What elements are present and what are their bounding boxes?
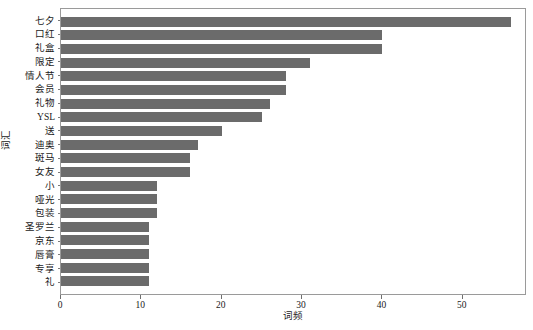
- plot-area: [60, 8, 526, 295]
- bar-row: [61, 275, 525, 288]
- bar: [61, 263, 149, 273]
- bar: [61, 126, 222, 136]
- bar: [61, 208, 157, 218]
- bar-row: [61, 56, 525, 69]
- y-axis-tick-label: 礼盒: [14, 42, 58, 55]
- bar-row: [61, 206, 525, 219]
- x-axis-tick-mark: [140, 295, 141, 299]
- bar: [61, 71, 286, 81]
- bar-row: [61, 261, 525, 274]
- x-axis-tick-label: 20: [216, 300, 226, 311]
- x-axis-tick-label: 0: [58, 300, 63, 311]
- y-axis-tick-labels: 七夕口红礼盒限定情人节会员礼物YSL送迪奥斑马女友小哑光包装圣罗兰京东唇膏专享礼: [14, 14, 58, 289]
- bar-row: [61, 29, 525, 42]
- y-axis-tick-label: 京东: [14, 235, 58, 248]
- bar-row: [61, 83, 525, 96]
- y-axis-tick-label: 小: [14, 179, 58, 192]
- bar-series: [61, 15, 525, 288]
- bar-row: [61, 193, 525, 206]
- y-axis-tick-label: YSL: [14, 110, 58, 123]
- y-axis-title: 词汇: [1, 120, 12, 160]
- bar-row: [61, 42, 525, 55]
- bar-row: [61, 179, 525, 192]
- bar: [61, 153, 190, 163]
- bar: [61, 222, 149, 232]
- bar: [61, 17, 511, 27]
- bar-row: [61, 97, 525, 110]
- x-axis-title: 词频: [60, 311, 526, 322]
- y-axis-tick-label: 会员: [14, 83, 58, 96]
- y-axis-tick-label: 礼: [14, 276, 58, 289]
- x-axis: 01020304050: [60, 295, 526, 296]
- bar: [61, 140, 198, 150]
- bar: [61, 167, 190, 177]
- x-axis-tick-label: 10: [136, 300, 146, 311]
- y-axis-tick-label: 送: [14, 124, 58, 137]
- bar-row: [61, 111, 525, 124]
- bar: [61, 30, 382, 40]
- y-axis-tick-label: 礼物: [14, 97, 58, 110]
- x-axis-tick-mark: [221, 295, 222, 299]
- bar-row: [61, 70, 525, 83]
- bar-row: [61, 220, 525, 233]
- y-axis-tick-label: 迪奥: [14, 138, 58, 151]
- y-axis-tick-label: 专享: [14, 262, 58, 275]
- bar: [61, 181, 157, 191]
- bar: [61, 249, 149, 259]
- bar: [61, 194, 157, 204]
- word-frequency-bar-chart: 词汇 七夕口红礼盒限定情人节会员礼物YSL送迪奥斑马女友小哑光包装圣罗兰京东唇膏…: [0, 0, 533, 330]
- bar-row: [61, 247, 525, 260]
- y-axis-tick-label: 情人节: [14, 69, 58, 82]
- bar-row: [61, 165, 525, 178]
- bar: [61, 85, 286, 95]
- y-axis-tick-label: 哑光: [14, 193, 58, 206]
- y-axis-tick-label: 包装: [14, 207, 58, 220]
- x-axis-tick-mark: [381, 295, 382, 299]
- y-axis-tick-label: 女友: [14, 166, 58, 179]
- y-axis-tick-label: 限定: [14, 55, 58, 68]
- x-axis-tick-mark: [462, 295, 463, 299]
- x-axis-tick-label: 50: [457, 300, 467, 311]
- bar-row: [61, 152, 525, 165]
- bar-row: [61, 124, 525, 137]
- bar: [61, 58, 310, 68]
- bar-row: [61, 138, 525, 151]
- bar-row: [61, 15, 525, 28]
- y-axis-tick-label: 唇膏: [14, 248, 58, 261]
- bar: [61, 44, 382, 54]
- bar: [61, 112, 262, 122]
- x-axis-tick-mark: [301, 295, 302, 299]
- bar: [61, 235, 149, 245]
- bar: [61, 276, 149, 286]
- y-axis-tick-label: 圣罗兰: [14, 221, 58, 234]
- x-axis-tick-label: 30: [296, 300, 306, 311]
- x-axis-tick-label: 40: [377, 300, 387, 311]
- bar: [61, 99, 270, 109]
- y-axis-tick-label: 口红: [14, 28, 58, 41]
- x-axis-tick-mark: [60, 295, 61, 299]
- y-axis-tick-label: 斑马: [14, 152, 58, 165]
- y-axis-tick-label: 七夕: [14, 14, 58, 27]
- bar-row: [61, 234, 525, 247]
